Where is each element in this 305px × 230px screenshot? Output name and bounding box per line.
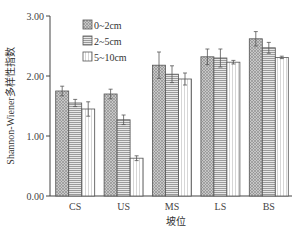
bar [179,79,192,196]
x-tick-label: LS [215,201,227,212]
bar [104,94,117,196]
y-tick-label: 0.00 [27,191,45,202]
y-axis-title: Shannon-Wiener多样性指数 [4,47,16,164]
x-tick-label: US [117,201,130,212]
bar [117,120,130,196]
bar [82,109,95,196]
y-tick-label: 3.00 [27,11,45,22]
legend: 0~2cm2~5cm5~10cm [83,20,127,63]
bar [227,62,240,196]
bar [130,158,143,196]
legend-label: 2~5cm [94,36,122,47]
bar [166,74,179,196]
bar [153,65,166,196]
y-axis: 0.001.002.003.00 [27,11,51,202]
y-tick-label: 1.00 [27,131,45,142]
legend-label: 0~2cm [94,20,122,31]
x-tick-label: MS [165,201,179,212]
bar [275,57,288,196]
legend-swatch [83,52,92,61]
bar [249,39,262,196]
legend-swatch [83,20,92,29]
bar [214,58,227,196]
x-axis: CSUSMSLSBS [50,196,292,212]
bar [201,57,214,196]
bar [69,103,82,196]
legend-label: 5~10cm [94,52,127,63]
x-tick-label: CS [69,201,81,212]
bar [56,91,69,196]
x-axis-title: 坡位 [166,215,186,227]
bar [262,48,275,196]
bar-chart: 0.001.002.003.00 CSUSMSLSBS 0~2cm2~5cm5~… [0,0,305,230]
legend-swatch [83,36,92,45]
y-tick-label: 2.00 [27,71,45,82]
x-tick-label: BS [263,201,275,212]
